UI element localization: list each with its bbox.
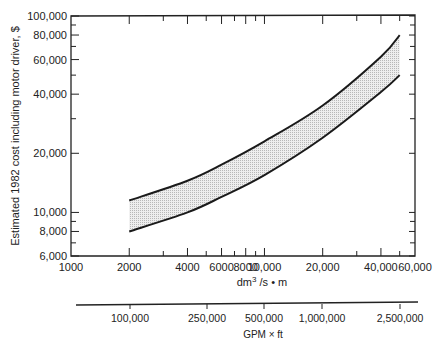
y-tick-label: 20,000 <box>33 147 67 159</box>
x-tick-label: 4000 <box>175 261 199 273</box>
x-tick-label: 40,000 <box>364 261 398 273</box>
plot-border <box>71 15 415 256</box>
band-fill <box>129 35 399 231</box>
y-tick-label: 80,000 <box>33 29 67 41</box>
secondary-axis-line <box>76 302 418 305</box>
cost-chart: 6,0008,00010,00020,00040,00060,00080,000… <box>0 0 441 346</box>
y-tick-label: 40,000 <box>33 88 67 100</box>
secondary-x-tick-label: 1,000,000 <box>299 312 346 324</box>
secondary-x-tick-label: 100,000 <box>111 312 149 324</box>
secondary-x-axis: 100,000250,000500,0001,000,0002,500,000 <box>76 302 424 324</box>
secondary-x-tick-label: 2,500,000 <box>377 312 424 324</box>
y-tick-label: 10,000 <box>33 206 67 218</box>
y-tick-label: 60,000 <box>33 54 67 66</box>
x-tick-label: 2000 <box>117 261 141 273</box>
y-axis-label: Estimated 1982 cost including motor driv… <box>9 26 21 246</box>
x-tick-label: 20,000 <box>306 261 340 273</box>
y-axis: 6,0008,00010,00020,00040,00060,00080,000… <box>27 10 415 262</box>
y-tick-label: 100,000 <box>27 10 67 22</box>
secondary-x-tick-label: 500,000 <box>245 312 283 324</box>
secondary-x-axis-label: GPM × ft <box>243 329 283 340</box>
x-tick-label: 60,000 <box>398 261 432 273</box>
x-tick-label: 1000 <box>59 261 83 273</box>
x-tick-label: 6000 <box>209 261 233 273</box>
x-tick-label: 10,000 <box>248 261 282 273</box>
plot-frame <box>71 15 415 256</box>
secondary-x-tick-label: 250,000 <box>188 312 226 324</box>
cost-band <box>129 35 399 231</box>
x-axis-label: dm3 /s • m <box>237 275 287 288</box>
x-axis: 1000200040006000800010,00020,00040,00060… <box>59 16 432 273</box>
y-tick-label: 8,000 <box>39 225 67 237</box>
